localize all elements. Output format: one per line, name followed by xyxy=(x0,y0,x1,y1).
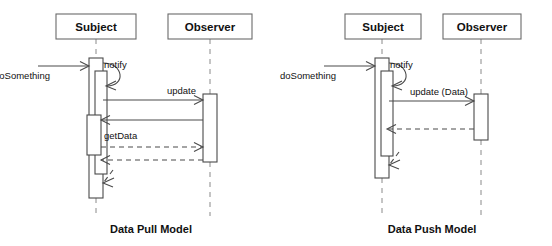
message-label-update-data: update (Data) xyxy=(410,86,468,97)
participant-label-observer: Observer xyxy=(185,21,236,33)
caption-data-pull: Data Pull Model xyxy=(110,223,192,235)
message-label-dosomething: doSomething xyxy=(0,70,50,81)
activation-bar-observer-push xyxy=(474,94,488,140)
message-label-notify: notify xyxy=(104,59,127,70)
caption-data-push: Data Push Model xyxy=(388,223,477,235)
diagram-canvas: Subject Observer doSomething notify u xyxy=(0,0,552,246)
diagram-data-pull: Subject Observer doSomething notify u xyxy=(0,14,252,235)
activation-bar-subject-getdata xyxy=(87,115,101,155)
participant-label-observer-push: Observer xyxy=(457,21,508,33)
message-label-dosomething-push: doSomething xyxy=(280,70,336,81)
participant-label-subject-push: Subject xyxy=(362,21,404,33)
message-label-getdata: getData xyxy=(104,130,138,141)
arrowhead-notify-return-push xyxy=(389,160,400,169)
message-label-notify-push: notify xyxy=(390,59,413,70)
activation-bar-subject-inner-push xyxy=(381,71,393,156)
activation-bar-observer xyxy=(203,94,217,162)
arrowhead-notify-return xyxy=(103,178,114,187)
diagram-data-push: Subject Observer doSomething notify upda… xyxy=(280,14,521,235)
participant-label-subject: Subject xyxy=(75,21,117,33)
uml-sequence-diagrams: Subject Observer doSomething notify u xyxy=(0,0,552,246)
message-label-update: update xyxy=(167,85,196,96)
